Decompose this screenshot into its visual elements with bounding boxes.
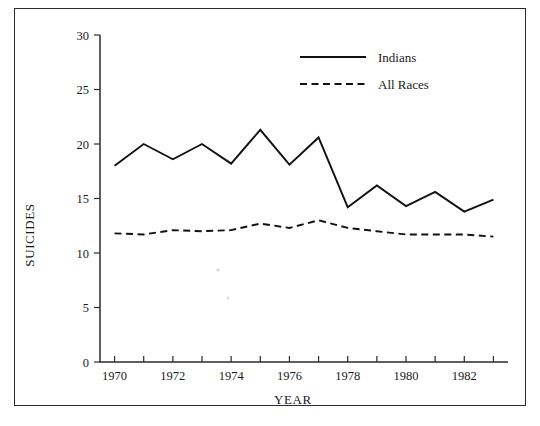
x-axis-tick-marks (115, 356, 494, 362)
x-axis-tick-labels: 1970197219741976197819801982 (102, 369, 477, 383)
chart-legend: IndiansAll Races (300, 50, 429, 92)
figure-root: 051015202530 197019721974197619781980198… (0, 0, 540, 426)
x-tick-label: 1978 (335, 369, 360, 383)
x-tick-label: 1970 (102, 369, 127, 383)
legend-entry: Indians (300, 50, 416, 65)
y-tick-label: 5 (83, 301, 89, 315)
x-tick-label: 1976 (277, 369, 302, 383)
y-axis-tick-labels: 051015202530 (77, 29, 90, 370)
y-tick-label: 25 (77, 83, 90, 97)
x-tick-label: 1980 (394, 369, 419, 383)
x-tick-label: 1974 (219, 369, 245, 383)
y-axis-title: SUICIDES (22, 203, 37, 266)
y-tick-label: 0 (83, 356, 89, 370)
x-tick-label: 1972 (160, 369, 185, 383)
scan-artifacts (216, 268, 229, 299)
series-line-indians (115, 130, 494, 212)
series-line-all-races (115, 220, 494, 236)
suicides-by-year-line-chart: 051015202530 197019721974197619781980198… (0, 0, 540, 426)
x-axis-title: YEAR (274, 392, 312, 407)
legend-label-indians: Indians (378, 50, 416, 65)
x-tick-label: 1982 (452, 369, 477, 383)
y-tick-label: 10 (77, 247, 90, 261)
y-tick-label: 20 (77, 138, 90, 152)
data-series-layer (115, 130, 494, 237)
y-tick-label: 15 (77, 192, 90, 206)
legend-label-all-races: All Races (378, 77, 429, 92)
legend-entry: All Races (300, 77, 429, 92)
y-tick-label: 30 (77, 29, 90, 43)
y-axis-tick-marks (94, 35, 100, 362)
